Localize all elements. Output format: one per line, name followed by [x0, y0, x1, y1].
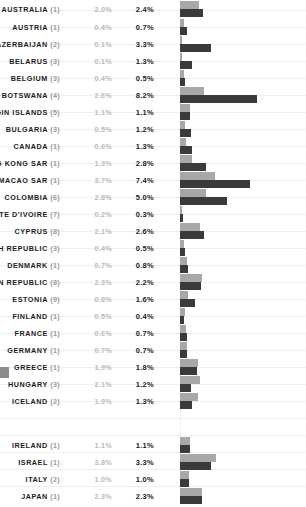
category-label: ISRAEL (1)	[18, 458, 60, 467]
value-series-a: 0.7%	[78, 261, 112, 270]
bar-series-a	[180, 342, 187, 350]
category-label: COLOMBIA (6)	[5, 193, 61, 202]
bar-series-a	[180, 488, 202, 496]
value-series-a: 3.7%	[78, 176, 112, 185]
bar-series-a	[180, 376, 200, 384]
value-series-b: 1.2%	[120, 380, 154, 389]
category-rank: (2)	[50, 475, 60, 484]
value-series-b: 2.8%	[120, 159, 154, 168]
bar-series-b	[180, 9, 203, 17]
bar-series-a	[180, 471, 189, 479]
category-rank: (1)	[50, 363, 60, 372]
value-series-a: 2.6%	[78, 91, 112, 100]
bar-series-a	[180, 138, 186, 146]
category-rank: (4)	[50, 91, 60, 100]
category-rank: (1)	[50, 346, 60, 355]
value-series-b: 1.3%	[120, 57, 154, 66]
category-label: IRELAND (1)	[12, 441, 60, 450]
bar-series-b	[180, 197, 227, 205]
bar-series-a	[180, 257, 187, 265]
value-series-b: 2.6%	[120, 227, 154, 236]
bar-series-a	[180, 308, 185, 316]
value-series-b: 3.3%	[120, 458, 154, 467]
value-series-b: 0.7%	[120, 346, 154, 355]
category-rank: (1)	[50, 329, 60, 338]
value-series-b: 1.3%	[120, 397, 154, 406]
value-series-a: 3.8%	[78, 458, 112, 467]
value-series-a: 1.9%	[78, 363, 112, 372]
category-label: FRANCE (1)	[15, 329, 60, 338]
row-label-group: JAPAN (1)2.3%2.3%	[0, 487, 176, 507]
value-series-a: 0.7%	[78, 346, 112, 355]
bar-series-a	[180, 36, 182, 44]
bar-series-b	[180, 61, 192, 69]
value-series-a: 1.1%	[78, 108, 112, 117]
value-series-a: 0.6%	[78, 142, 112, 151]
category-label: COTE D'IVOIRE (7)	[0, 210, 60, 219]
bar-series-a	[180, 240, 184, 248]
value-series-a: 0.1%	[78, 57, 112, 66]
bar-series-b	[180, 180, 250, 188]
category-rank: (2)	[50, 397, 60, 406]
bar-series-b	[180, 231, 204, 239]
bar-series-b	[180, 316, 184, 324]
value-series-a: 0.4%	[78, 74, 112, 83]
category-label: BRITISH VIRGIN ISLANDS (5)	[0, 108, 60, 117]
category-rank: (2)	[50, 40, 60, 49]
bar-series-a	[180, 274, 202, 282]
bar-series-a	[180, 325, 186, 333]
bar-series-b	[180, 44, 211, 52]
bar-series-b	[180, 367, 197, 375]
bar-series-b	[180, 462, 211, 470]
bar-series-a	[180, 19, 184, 27]
bar-series-b	[180, 445, 190, 453]
bar-series-a	[180, 70, 184, 78]
value-series-a: 1.9%	[78, 397, 112, 406]
value-series-a: 0.8%	[78, 295, 112, 304]
bar-series-b	[180, 401, 192, 409]
category-rank: (3)	[50, 57, 60, 66]
bar-series-a	[180, 172, 215, 180]
bar-series-a	[180, 189, 206, 197]
value-series-a: 2.1%	[78, 380, 112, 389]
chart-row: ICELAND (2)1.9%1.3%	[0, 392, 306, 412]
category-label: ESTONIA (9)	[12, 295, 60, 304]
category-label: DENMARK (1)	[7, 261, 60, 270]
category-label: ITALY (2)	[26, 475, 60, 484]
value-series-b: 1.2%	[120, 125, 154, 134]
value-series-a: 2.1%	[78, 227, 112, 236]
bar-series-a	[180, 359, 198, 367]
bar-series-b	[180, 248, 185, 256]
value-series-a: 0.2%	[78, 210, 112, 219]
value-series-a: 2.8%	[78, 193, 112, 202]
bar-series-a	[180, 121, 185, 129]
category-label: GREECE (1)	[14, 363, 60, 372]
value-series-b: 1.6%	[120, 295, 154, 304]
category-rank: (1)	[50, 441, 60, 450]
value-series-a: 0.5%	[78, 125, 112, 134]
row-label-group: AUSTRALIA (1)2.0%2.4%	[0, 0, 176, 20]
category-rank: (3)	[50, 380, 60, 389]
value-series-a: 1.3%	[78, 159, 112, 168]
category-label: FINLAND (1)	[12, 312, 60, 321]
value-series-a: 2.0%	[78, 5, 112, 14]
category-rank: (6)	[50, 193, 60, 202]
value-series-b: 0.7%	[120, 23, 154, 32]
value-series-a: 2.3%	[78, 492, 112, 501]
value-series-b: 0.7%	[120, 329, 154, 338]
value-series-a: 0.6%	[78, 329, 112, 338]
value-series-a: 0.1%	[78, 40, 112, 49]
bar-series-b	[180, 95, 257, 103]
bar-series-a	[180, 454, 216, 462]
bar-series-b	[180, 146, 192, 154]
value-series-b: 1.1%	[120, 441, 154, 450]
bar-series-a	[180, 223, 200, 231]
value-series-a: 1.0%	[78, 475, 112, 484]
category-rank: (5)	[50, 108, 60, 117]
category-label: CZECH REPUBLIC (3)	[0, 244, 60, 253]
category-label: GERMANY (1)	[7, 346, 60, 355]
chart-row: AUSTRALIA (1)2.0%2.4%	[0, 0, 306, 20]
value-series-b: 0.8%	[120, 261, 154, 270]
bar-series-a	[180, 53, 182, 61]
category-rank: (1)	[50, 23, 60, 32]
